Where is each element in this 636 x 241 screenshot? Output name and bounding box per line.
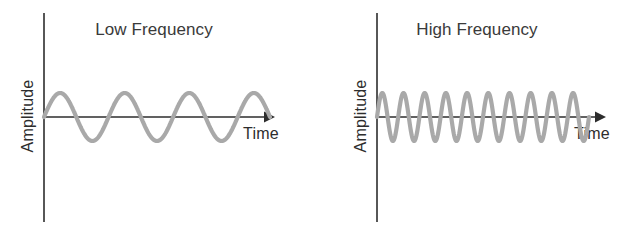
panel-low-frequency: Low Frequency Amplitude Time (0, 0, 318, 241)
plot-area-low-frequency (0, 0, 318, 241)
waveform-high-frequency (377, 93, 589, 141)
frequency-comparison-figure: Low Frequency Amplitude Time High Freque… (0, 0, 636, 241)
plot-area-high-frequency (318, 0, 636, 241)
x-axis-arrowhead-high (595, 112, 606, 123)
panel-high-frequency: High Frequency Amplitude Time (318, 0, 636, 241)
